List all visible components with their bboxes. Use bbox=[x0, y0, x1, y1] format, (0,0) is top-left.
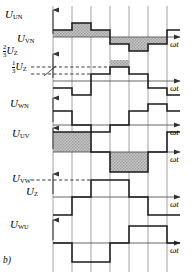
u-vn-dashed-levels bbox=[31, 67, 110, 74]
label-u-un-base: U bbox=[5, 8, 13, 20]
label-u-vw-base: U bbox=[12, 172, 20, 184]
label-u-wn: UWN bbox=[10, 98, 29, 110]
label-u-wn-base: U bbox=[10, 97, 18, 109]
label-uz: UZ bbox=[26, 186, 38, 198]
label-u-wn-sub: WN bbox=[18, 102, 29, 109]
label-u-vw: UVW bbox=[12, 173, 31, 185]
label-uz-base: U bbox=[26, 185, 34, 197]
axis-label-omega-t-3: ωt bbox=[170, 127, 179, 137]
label-u-uv: UUV bbox=[12, 128, 29, 140]
axis-label-omega-t-5: ωt bbox=[170, 199, 179, 209]
label-u-vn: UVN bbox=[17, 33, 34, 45]
label-u-uv-base: U bbox=[12, 127, 20, 139]
label-u-wu: UWU bbox=[10, 219, 29, 231]
label-u-un: UUN bbox=[5, 9, 22, 21]
label-u-vw-sub: VW bbox=[20, 177, 31, 184]
label-u-uv-sub: UV bbox=[20, 132, 29, 139]
label-u-wu-sub: WU bbox=[18, 223, 29, 230]
label-u-vn-base: U bbox=[17, 32, 25, 44]
label-uz-sub: Z bbox=[34, 190, 38, 197]
axis-label-omega-t-1: ωt bbox=[170, 39, 179, 49]
axis-label-omega-t-6: ωt bbox=[170, 245, 179, 255]
u-vn-shading bbox=[110, 60, 129, 67]
label-one-third-uz: 13UZ bbox=[12, 60, 27, 75]
label-u-un-sub: UN bbox=[13, 13, 22, 20]
figure-caption: b) bbox=[3, 255, 11, 265]
uz-leader-lines bbox=[44, 66, 56, 76]
axis-label-omega-t-2: ωt bbox=[170, 83, 179, 93]
axis-label-omega-t-4: ωt bbox=[170, 154, 179, 164]
label-u-vn-sub: VN bbox=[25, 37, 34, 44]
label-two-thirds-uz: 23UZ bbox=[3, 44, 18, 59]
label-u-wu-base: U bbox=[10, 218, 18, 230]
